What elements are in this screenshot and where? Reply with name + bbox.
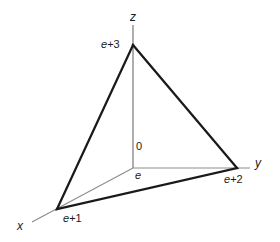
zero-label: 0 — [136, 141, 142, 152]
y-intercept-point — [236, 167, 238, 169]
x-intercept-point — [56, 208, 58, 210]
y-intercept-label-suffix: +2 — [230, 173, 243, 185]
z-intercept-point — [132, 44, 135, 47]
coordinate-diagram: e+3 e+2 e+1 e 0 z y x — [0, 0, 280, 242]
z-intercept-label-suffix: +3 — [107, 38, 120, 50]
y-axis-label: y — [255, 157, 261, 169]
diagram-canvas — [0, 0, 280, 242]
z-intercept-label: e+3 — [101, 39, 120, 50]
y-intercept-label: e+2 — [224, 174, 243, 185]
origin-label-text: e — [135, 169, 141, 181]
x-intercept-label-suffix: +1 — [69, 212, 82, 224]
origin-label: e — [135, 170, 141, 181]
z-axis-label: z — [130, 11, 136, 23]
x-intercept-label: e+1 — [63, 213, 82, 224]
x-axis-label: x — [17, 220, 23, 232]
intercept-triangle — [57, 45, 237, 209]
